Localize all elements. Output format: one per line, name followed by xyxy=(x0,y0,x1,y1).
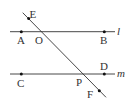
point-c xyxy=(20,73,23,76)
label-p: P xyxy=(76,76,82,88)
point-b xyxy=(103,30,106,33)
label-d: D xyxy=(100,60,108,72)
label-line-m: m xyxy=(117,67,125,79)
transversal-ef xyxy=(23,13,106,98)
label-e: E xyxy=(30,8,37,20)
point-a xyxy=(20,30,23,33)
label-c: C xyxy=(17,77,24,89)
label-a: A xyxy=(17,34,25,46)
geometry-diagram: E A O B l D m C P F xyxy=(0,0,131,106)
label-b: B xyxy=(100,34,107,46)
point-f xyxy=(98,89,101,92)
label-o: O xyxy=(35,34,43,46)
point-d xyxy=(103,73,106,76)
label-f: F xyxy=(87,88,93,100)
label-line-l: l xyxy=(117,25,120,37)
